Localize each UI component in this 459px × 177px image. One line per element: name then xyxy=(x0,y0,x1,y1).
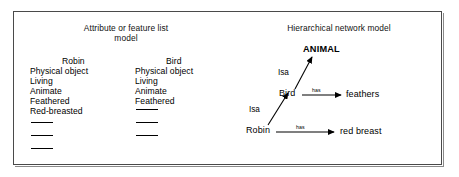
edge-label-isa-robin-bird: Isa xyxy=(249,105,260,114)
node-red-breast: red breast xyxy=(340,126,382,136)
node-feathers: feathers xyxy=(346,89,379,99)
figure-canvas: Attribute or feature list model Robin Ph… xyxy=(0,0,459,177)
edge-label-isa-bird-animal: Isa xyxy=(278,68,289,77)
node-bird: Bird xyxy=(279,88,295,98)
figure-panel: Attribute or feature list model Robin Ph… xyxy=(13,11,442,165)
edge-label-has-robin-red-breast: has xyxy=(296,124,305,130)
node-animal: ANIMAL xyxy=(303,44,340,54)
node-robin: Robin xyxy=(246,125,270,135)
edge-label-has-bird-feathers: has xyxy=(312,87,321,93)
edge-isa-bird-animal xyxy=(295,57,312,89)
